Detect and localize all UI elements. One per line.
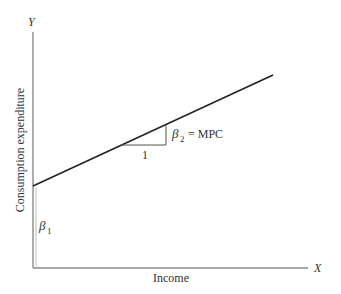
svg-text:1: 1 <box>47 226 52 236</box>
svg-text:2: 2 <box>180 134 185 144</box>
slope-label: β 2 = MPC <box>171 126 223 144</box>
y-axis-label: Consumption expenditure <box>13 88 27 212</box>
y-axis-symbol: Y <box>28 15 36 29</box>
svg-text:= MPC: = MPC <box>185 127 223 141</box>
intercept-label: β 1 <box>38 218 52 236</box>
svg-text:β: β <box>38 218 46 233</box>
consumption-function-diagram: Y X Consumption expenditure Income 1 β 1… <box>0 0 341 294</box>
svg-text:β: β <box>171 126 179 141</box>
run-label: 1 <box>142 148 148 162</box>
x-axis-symbol: X <box>313 261 322 275</box>
consumption-line <box>33 75 273 186</box>
x-axis-label: Income <box>153 271 189 285</box>
